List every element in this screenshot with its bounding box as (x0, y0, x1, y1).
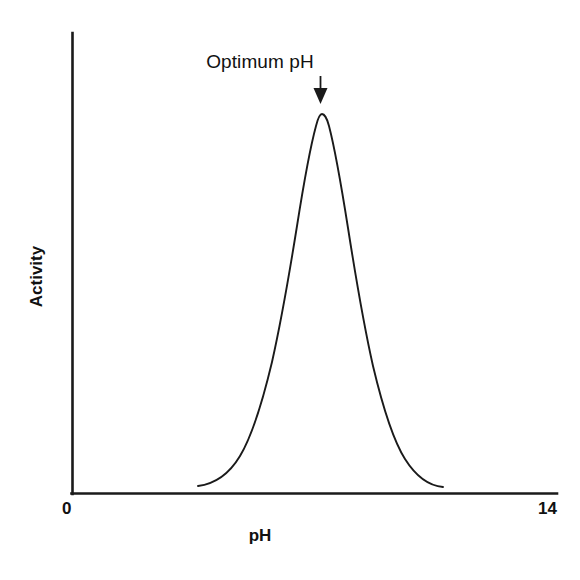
optimum-ph-annotation-label: Optimum pH (0, 52, 550, 71)
activity-curve (198, 114, 443, 487)
ph-activity-chart: Optimum pH Activity pH 0 14 (0, 0, 580, 580)
x-axis-tick-label-max: 14 (527, 500, 557, 517)
y-axis-title: Activity (28, 232, 45, 322)
x-axis-tick-label-min: 0 (62, 500, 71, 517)
x-axis-title: pH (0, 527, 550, 544)
chart-canvas (0, 0, 580, 580)
annotation-arrowhead-icon (314, 88, 328, 104)
